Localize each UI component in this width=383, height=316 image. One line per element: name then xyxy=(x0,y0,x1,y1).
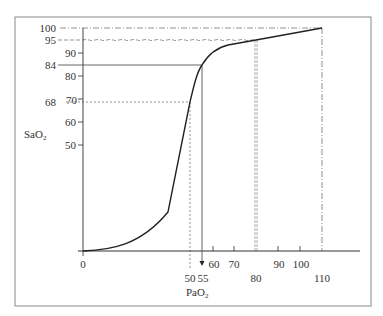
y-label-70: 70 xyxy=(66,94,78,106)
x-label-60: 60 xyxy=(209,258,221,270)
x-axis-title: PaO2 xyxy=(186,286,209,300)
y-label-80: 80 xyxy=(65,70,77,82)
y-axis-title: SaO2 xyxy=(24,128,47,142)
x-label-55: 55 xyxy=(198,272,210,284)
x-label-80: 80 xyxy=(251,272,263,284)
ref-line-95 xyxy=(58,40,256,41)
x-label-90: 90 xyxy=(274,258,286,270)
y-label-100: 100 xyxy=(40,22,57,34)
arrow-down-icon xyxy=(200,261,205,266)
y-label-84: 84 xyxy=(45,59,57,71)
y-label-95: 95 xyxy=(45,34,57,46)
y-ticks xyxy=(78,53,83,145)
x-label-110: 110 xyxy=(314,272,331,284)
y-label-68: 68 xyxy=(45,96,57,108)
y-label-50: 50 xyxy=(65,139,77,151)
oxygen-dissociation-chart: 100 95 90 84 80 70 68 60 50 SaO2 0 50 55… xyxy=(0,0,383,316)
x-label-100: 100 xyxy=(293,258,310,270)
y-label-90: 90 xyxy=(65,47,77,59)
chart-frame xyxy=(15,17,371,306)
y-label-60: 60 xyxy=(65,116,77,128)
x-label-70: 70 xyxy=(229,258,241,270)
x-label-0: 0 xyxy=(80,258,86,270)
x-label-50: 50 xyxy=(185,272,197,284)
dissociation-curve xyxy=(83,28,322,251)
